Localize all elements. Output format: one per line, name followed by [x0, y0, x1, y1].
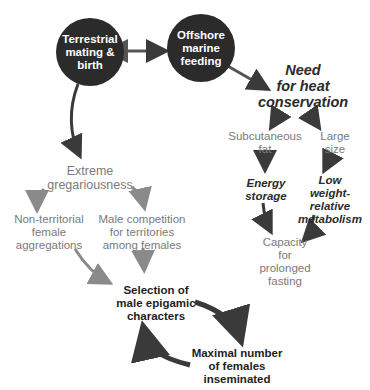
arrow-selection-maximal: [195, 302, 240, 338]
node-large-size: Large size: [315, 130, 355, 156]
arrow-terrestrial-gregariousness: [71, 84, 79, 154]
node-terrestrial: Terrestrial mating & birth: [56, 18, 124, 86]
node-heat: Need for heat conservation: [248, 62, 358, 110]
node-maximal: Maximal number of females inseminated: [184, 347, 290, 386]
node-terrestrial-label: Terrestrial mating & birth: [62, 33, 117, 72]
node-selection: Selection of male epigamic characters: [112, 284, 200, 323]
node-offshore: Offshore marine feeding: [167, 14, 235, 82]
node-energy-storage: Energy storage: [238, 177, 294, 203]
node-gregariousness: Extreme gregariousness: [30, 164, 150, 192]
node-non-territorial: Non-territorial female aggregations: [6, 213, 92, 252]
node-low-metabolism: Low weight-relative metabolism: [290, 174, 370, 226]
node-subcutaneous: Subcutaneous fat: [222, 130, 308, 156]
node-offshore-label: Offshore marine feeding: [177, 29, 225, 68]
node-male-competition: Male competition for territories among f…: [96, 213, 188, 252]
node-fasting: Capacity for prolonged fasting: [250, 236, 320, 288]
